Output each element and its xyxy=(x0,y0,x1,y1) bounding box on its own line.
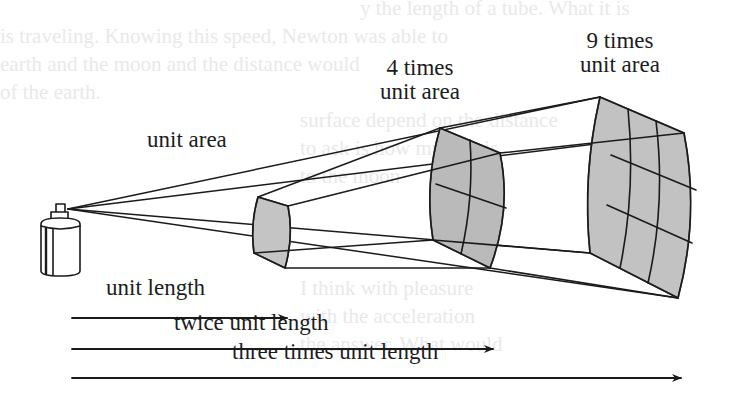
surface-4x-area xyxy=(430,128,506,268)
spray-can-icon xyxy=(41,204,80,276)
surface-2-label: 4 times unit area xyxy=(366,56,474,104)
surface-3-label-line2: unit area xyxy=(566,53,674,77)
surface-1-label: unit area xyxy=(147,128,227,152)
arrow-1-label: unit length xyxy=(106,276,205,300)
surface-2-label-line2: unit area xyxy=(366,80,474,104)
arrow-2-label: twice unit length xyxy=(174,311,329,335)
arrow-3-label: three times unit length xyxy=(232,340,438,364)
surface-unit-area xyxy=(253,197,291,268)
surface-9x-area xyxy=(588,97,696,298)
surface-3-label-line1: 9 times xyxy=(566,29,674,53)
surface-2-label-line1: 4 times xyxy=(366,56,474,80)
surface-3-label: 9 times unit area xyxy=(566,29,674,77)
